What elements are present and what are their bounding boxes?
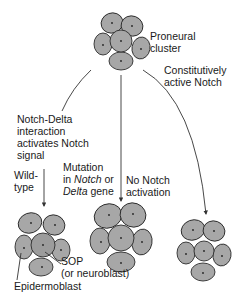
left-curve-line — [62, 70, 91, 111]
label-line: type — [14, 181, 38, 193]
label-line: SOP — [61, 255, 129, 267]
label-line: activation — [126, 186, 170, 198]
notch-delta-label: Notch-Delta interaction activates Notch … — [17, 113, 89, 161]
label-line: interaction — [17, 125, 89, 137]
label-line: Epidermoblast — [14, 280, 81, 292]
label-line: Mutation — [63, 161, 114, 173]
label-line: (or neuroblast) — [61, 267, 129, 279]
constitutive-cluster — [177, 216, 233, 281]
sop-label: SOP (or neuroblast) — [61, 255, 129, 279]
label-line: Constitutively — [164, 64, 226, 76]
label-line: Delta gene — [63, 185, 114, 197]
label-line: signal — [17, 149, 89, 161]
label-line: activates Notch — [17, 137, 89, 149]
proneural-cluster-label: Proneural cluster — [150, 30, 196, 54]
label-line: Notch-Delta — [17, 113, 89, 125]
label-line: cluster — [150, 42, 196, 54]
mutation-label: Mutation in Notch or Delta gene — [63, 161, 114, 197]
proneural-cluster — [94, 10, 152, 70]
constitutive-label: Constitutively active Notch — [164, 64, 226, 88]
epidermoblast-label: Epidermoblast — [14, 280, 81, 292]
label-line: Wild- — [14, 169, 38, 181]
no-notch-activation-label: No Notch activation — [126, 174, 170, 198]
label-line: No Notch — [126, 174, 170, 186]
wild-type-label: Wild- type — [14, 169, 38, 193]
label-line: active Notch — [164, 76, 226, 88]
label-line: in Notch or — [63, 173, 114, 185]
label-line: Proneural — [150, 30, 196, 42]
